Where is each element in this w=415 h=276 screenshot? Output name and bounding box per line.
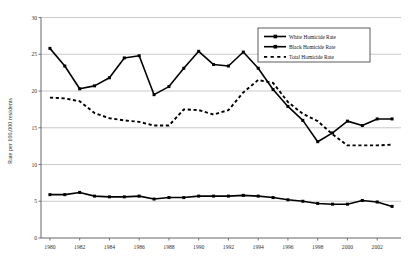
chart-canvas: 051015202530 198019821984198619881990199… bbox=[0, 0, 415, 276]
data-point-marker bbox=[153, 93, 156, 96]
y-tick-label: 10 bbox=[31, 162, 37, 168]
x-tick-label: 1994 bbox=[253, 244, 264, 250]
y-tick-label: 5 bbox=[34, 198, 37, 204]
data-point-marker bbox=[391, 117, 394, 120]
data-point-marker bbox=[123, 195, 126, 198]
legend-item-label: White Homicide Rate bbox=[289, 34, 337, 40]
legend-swatch-marker bbox=[274, 45, 278, 49]
x-tick-label: 1990 bbox=[193, 244, 204, 250]
data-point-marker bbox=[197, 195, 200, 198]
data-point-marker bbox=[48, 47, 51, 50]
data-point-marker bbox=[78, 87, 81, 90]
data-point-marker bbox=[286, 198, 289, 201]
data-point-marker bbox=[376, 200, 379, 203]
legend-item-label: Black Homicide Rate bbox=[289, 44, 336, 50]
x-tick-label: 2002 bbox=[372, 244, 383, 250]
x-tick-label: 1986 bbox=[134, 244, 145, 250]
data-point-marker bbox=[167, 196, 170, 199]
data-point-marker bbox=[182, 67, 185, 70]
data-point-marker bbox=[346, 120, 349, 123]
data-point-marker bbox=[212, 63, 215, 66]
data-point-marker bbox=[138, 195, 141, 198]
data-point-marker bbox=[182, 196, 185, 199]
data-point-marker bbox=[257, 67, 260, 70]
data-point-marker bbox=[272, 88, 275, 91]
chart-legend: White Homicide RateBlack Homicide RateTo… bbox=[258, 28, 370, 62]
data-point-marker bbox=[301, 200, 304, 203]
x-tick-label: 1998 bbox=[312, 244, 323, 250]
data-point-marker bbox=[167, 85, 170, 88]
data-point-marker bbox=[93, 84, 96, 87]
y-tick-label: 0 bbox=[34, 235, 37, 241]
x-tick-label: 1980 bbox=[44, 244, 55, 250]
y-tick-label: 30 bbox=[31, 15, 37, 21]
data-point-marker bbox=[242, 51, 245, 54]
data-point-marker bbox=[123, 56, 126, 59]
data-point-marker bbox=[242, 194, 245, 197]
data-point-marker bbox=[93, 195, 96, 198]
data-point-marker bbox=[63, 193, 66, 196]
data-point-marker bbox=[316, 140, 319, 143]
x-tick-label: 2000 bbox=[342, 244, 353, 250]
y-tick-label: 15 bbox=[31, 125, 37, 131]
data-point-marker bbox=[108, 195, 111, 198]
data-point-marker bbox=[331, 131, 334, 134]
homicide-rate-line-chart: 051015202530 198019821984198619881990199… bbox=[0, 0, 415, 276]
x-tick-label: 1996 bbox=[282, 244, 293, 250]
data-point-marker bbox=[48, 193, 51, 196]
data-point-marker bbox=[301, 119, 304, 122]
data-point-marker bbox=[391, 205, 394, 208]
data-point-marker bbox=[361, 124, 364, 127]
data-point-marker bbox=[272, 196, 275, 199]
data-point-marker bbox=[212, 195, 215, 198]
data-point-marker bbox=[78, 191, 81, 194]
data-point-marker bbox=[286, 105, 289, 108]
data-point-marker bbox=[346, 203, 349, 206]
x-tick-label: 1982 bbox=[74, 244, 85, 250]
y-tick-label: 25 bbox=[31, 51, 37, 57]
data-point-marker bbox=[63, 65, 66, 68]
data-point-marker bbox=[361, 199, 364, 202]
x-tick-label: 1984 bbox=[104, 244, 115, 250]
data-point-marker bbox=[331, 203, 334, 206]
legend-item-label: Total Homicide Rate bbox=[289, 54, 334, 60]
y-axis-title: Rate per 100,000 residents bbox=[6, 97, 13, 164]
y-tick-label: 20 bbox=[31, 88, 37, 94]
data-point-marker bbox=[316, 202, 319, 205]
data-point-marker bbox=[227, 65, 230, 68]
data-point-marker bbox=[197, 50, 200, 53]
data-point-marker bbox=[138, 54, 141, 57]
data-point-marker bbox=[153, 198, 156, 201]
data-point-marker bbox=[376, 117, 379, 120]
data-point-marker bbox=[257, 195, 260, 198]
data-point-marker bbox=[227, 195, 230, 198]
x-tick-label: 1988 bbox=[163, 244, 174, 250]
x-tick-label: 1992 bbox=[223, 244, 234, 250]
legend-swatch-marker bbox=[274, 35, 278, 39]
data-point-marker bbox=[108, 76, 111, 79]
